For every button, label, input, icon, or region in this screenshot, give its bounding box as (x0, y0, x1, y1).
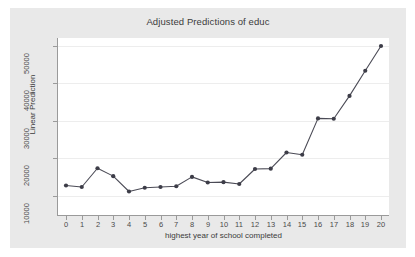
x-tick-label-17: 17 (326, 220, 342, 229)
x-tick-label-1: 1 (74, 220, 90, 229)
y-axis-title: Linear Prediction (28, 65, 37, 145)
graph-region: Adjusted Predictions of educ 50000 40000… (10, 8, 406, 248)
x-tick-label-20: 20 (373, 220, 389, 229)
y-axis-line (57, 38, 58, 216)
y-tick-label-10000: 10000 (22, 197, 31, 231)
plot-area (58, 38, 389, 215)
gridline-50000 (58, 46, 389, 47)
y-tick-30000 (53, 121, 57, 122)
x-tick-label-3: 3 (105, 220, 121, 229)
x-tick-label-2: 2 (90, 220, 106, 229)
x-tick-label-7: 7 (168, 220, 184, 229)
x-tick-label-18: 18 (342, 220, 358, 229)
x-tick-label-11: 11 (231, 220, 247, 229)
x-tick-label-12: 12 (247, 220, 263, 229)
gridline-10000 (58, 196, 389, 197)
x-tick-label-13: 13 (263, 220, 279, 229)
x-tick-label-5: 5 (137, 220, 153, 229)
x-axis-line (57, 215, 389, 216)
x-tick-label-14: 14 (279, 220, 295, 229)
y-tick-40000 (53, 83, 57, 84)
gridline-40000 (58, 83, 389, 84)
y-tick-20000 (53, 158, 57, 159)
x-tick-label-19: 19 (357, 220, 373, 229)
x-tick-label-15: 15 (294, 220, 310, 229)
gridline-20000 (58, 158, 389, 159)
x-tick-label-8: 8 (184, 220, 200, 229)
x-tick-label-10: 10 (216, 220, 232, 229)
x-tick-label-6: 6 (153, 220, 169, 229)
y-tick-label-20000: 20000 (22, 159, 31, 193)
x-tick-label-9: 9 (200, 220, 216, 229)
y-tick-50000 (53, 46, 57, 47)
x-tick-label-16: 16 (310, 220, 326, 229)
x-tick-label-4: 4 (121, 220, 137, 229)
y-tick-10000 (53, 196, 57, 197)
gridline-30000 (58, 121, 389, 122)
x-axis-title: highest year of school completed (58, 231, 389, 240)
screenshot-root: Adjusted Predictions of educ 50000 40000… (0, 0, 415, 257)
chart-title: Adjusted Predictions of educ (10, 16, 406, 27)
x-tick-label-0: 0 (58, 220, 74, 229)
